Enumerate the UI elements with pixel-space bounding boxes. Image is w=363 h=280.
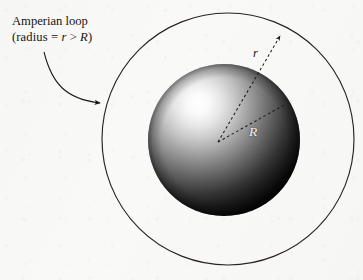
callout-curve-path [44, 52, 100, 103]
radius-r-label: r [253, 45, 258, 61]
annotation-line-1: Amperian loop [12, 13, 92, 29]
amperian-loop-annotation: Amperian loop (radius = r > R) [12, 13, 92, 45]
physics-figure-amperian-loop: Amperian loop (radius = r > R) r R [0, 0, 363, 280]
annotation-var-R: R [80, 30, 88, 44]
sphere-edge-shading [148, 64, 300, 216]
annotation-operator: > [66, 30, 80, 44]
annotation-suffix: ) [88, 30, 92, 44]
annotation-prefix: (radius = [12, 30, 61, 44]
radius-R-label: R [249, 123, 257, 140]
annotation-line-2: (radius = r > R) [12, 29, 92, 45]
